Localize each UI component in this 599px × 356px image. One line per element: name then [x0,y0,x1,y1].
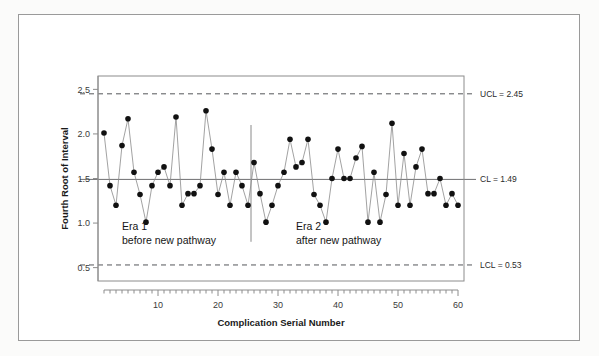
data-point [395,202,401,208]
data-point [407,202,413,208]
x-axis: 102030405060 [104,290,463,310]
data-point [269,202,275,208]
data-point [245,202,251,208]
data-point [221,169,227,175]
y-tick-label: 1.5 [77,174,90,184]
data-point [347,176,353,182]
data-point [455,202,461,208]
cl-label: CL = 1.49 [480,174,517,184]
data-point [161,164,167,170]
x-tick-label: 40 [333,300,343,310]
y-tick-label: 0.5 [77,263,90,273]
data-point [263,219,269,225]
data-point [383,192,389,198]
data-point [119,143,125,149]
data-point [107,183,113,189]
y-tick-label: 2.0 [77,129,90,139]
era-2-title: Era 2 [296,220,321,232]
era-2-subtitle: after new pathway [296,234,382,246]
data-point [191,191,197,197]
data-point [233,169,239,175]
data-point [431,191,437,197]
y-axis-title: Fourth Root of Interval [59,127,70,229]
data-point [335,146,341,152]
data-point [293,164,299,170]
era-annotations: Era 1before new pathwayEra 2after new pa… [122,220,382,246]
data-point [425,191,431,197]
data-point [437,176,443,182]
lcl-label: LCL = 0.53 [480,260,522,270]
x-tick-label: 10 [153,300,163,310]
data-point [209,146,215,152]
page-root: 102030405060 0.51.01.52.02.5 UCL = 2.45C… [0,0,599,356]
y-tick-label: 1.0 [77,218,90,228]
data-point [203,108,209,114]
ucl-label: UCL = 2.45 [480,89,523,99]
x-axis-title: Complication Serial Number [217,317,345,328]
data-point [113,202,119,208]
data-point [155,169,161,175]
x-tick-label: 60 [453,300,463,310]
data-point [227,202,233,208]
data-points [101,108,461,225]
x-tick-label: 30 [273,300,283,310]
data-point [131,169,137,175]
y-axis: 0.51.01.52.02.5 [77,76,98,281]
data-point [287,136,293,142]
data-point [167,183,173,189]
data-point [323,219,329,225]
data-point [281,169,287,175]
data-point [275,183,281,189]
data-series-line [104,111,458,222]
data-point [137,192,143,198]
data-point [125,116,131,122]
data-point [329,176,335,182]
data-point [401,151,407,157]
data-point [239,183,245,189]
data-point [305,136,311,142]
era-1-subtitle: before new pathway [122,234,217,246]
data-point [449,191,455,197]
data-point [251,160,257,166]
x-tick-label: 50 [393,300,403,310]
data-point [179,202,185,208]
y-tick-label: 2.5 [77,85,90,95]
data-point [389,120,395,126]
series-polyline [104,111,458,222]
data-point [365,219,371,225]
data-point [317,202,323,208]
data-point [185,191,191,197]
data-point [197,183,203,189]
data-point [101,130,107,136]
data-point [419,146,425,152]
data-point [443,202,449,208]
era-1-title: Era 1 [122,220,147,232]
data-point [359,144,365,150]
data-point [215,192,221,198]
data-point [299,160,305,166]
data-point [149,183,155,189]
data-point [371,169,377,175]
data-point [257,191,263,197]
data-point [413,164,419,170]
control-limit-labels: UCL = 2.45CL = 1.49LCL = 0.53 [480,89,523,270]
data-point [341,176,347,182]
x-tick-label: 20 [213,300,223,310]
data-point [353,155,359,161]
data-point [377,219,383,225]
data-point [311,192,317,198]
data-point [173,114,179,120]
control-chart: 102030405060 0.51.01.52.02.5 UCL = 2.45C… [0,0,599,356]
